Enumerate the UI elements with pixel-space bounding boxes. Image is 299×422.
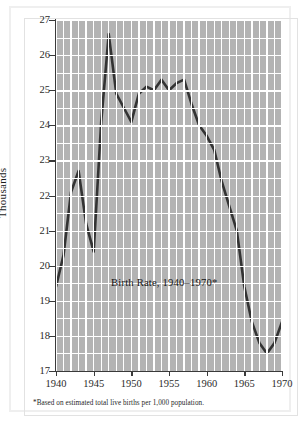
vertical-gridline — [251, 20, 252, 371]
vertical-gridline — [123, 20, 124, 371]
x-tick-label: 1945 — [74, 378, 114, 389]
y-tick-mark — [49, 301, 55, 302]
y-tick-mark — [49, 196, 55, 197]
y-tick-label: 27 — [10, 15, 50, 26]
y-tick-mark — [49, 20, 55, 21]
y-tick-label: 21 — [10, 226, 50, 237]
x-tick-label: 1955 — [149, 378, 189, 389]
y-tick-label: 19 — [10, 296, 50, 307]
x-tick-label: 1965 — [224, 378, 264, 389]
vertical-gridline — [214, 20, 215, 371]
y-tick-label: 22 — [10, 191, 50, 202]
y-tick-label: 24 — [10, 120, 50, 131]
vertical-gridline — [191, 20, 192, 371]
vertical-gridline — [146, 20, 147, 371]
vertical-gridline — [266, 20, 267, 371]
x-tick-label: 1960 — [187, 378, 227, 389]
vertical-gridline — [78, 20, 79, 371]
vertical-gridline — [198, 20, 199, 371]
x-tick-mark — [94, 371, 95, 376]
plot-area — [56, 20, 282, 371]
y-tick-mark — [49, 231, 55, 232]
vertical-gridline — [116, 20, 117, 371]
vertical-gridline — [206, 20, 207, 371]
y-tick-mark — [49, 371, 55, 372]
x-tick-mark — [244, 371, 245, 376]
y-tick-mark — [49, 55, 55, 56]
y-axis-line — [55, 19, 56, 372]
y-tick-label: 26 — [10, 50, 50, 61]
y-tick-mark — [49, 90, 55, 91]
x-tick-mark — [282, 371, 283, 376]
x-tick-mark — [131, 371, 132, 376]
vertical-gridline — [229, 20, 230, 371]
x-tick-mark — [56, 371, 57, 376]
vertical-gridline — [131, 20, 132, 371]
x-tick-label: 1970 — [262, 378, 299, 389]
vertical-gridline — [168, 20, 169, 371]
vertical-gridline — [221, 20, 222, 371]
y-tick-label: 25 — [10, 85, 50, 96]
vertical-gridline — [259, 20, 260, 371]
y-tick-mark — [49, 160, 55, 161]
vertical-gridline — [183, 20, 184, 371]
chart-caption: Birth Rate, 1940–1970* — [111, 277, 218, 288]
y-tick-label: 23 — [10, 155, 50, 166]
vertical-gridline — [70, 20, 71, 371]
vertical-gridline — [281, 20, 282, 371]
x-tick-mark — [207, 371, 208, 376]
vertical-gridline — [153, 20, 154, 371]
vertical-gridline — [244, 20, 245, 371]
vertical-gridline — [85, 20, 86, 371]
vertical-gridline — [108, 20, 109, 371]
y-tick-label: 17 — [10, 366, 50, 377]
x-tick-label: 1950 — [111, 378, 151, 389]
y-tick-label: 18 — [10, 331, 50, 342]
chart-footnote: *Based on estimated total live births pe… — [33, 399, 283, 407]
vertical-gridline — [274, 20, 275, 371]
vertical-gridline — [138, 20, 139, 371]
vertical-gridline — [101, 20, 102, 371]
y-tick-mark — [49, 266, 55, 267]
y-tick-mark — [49, 336, 55, 337]
y-tick-mark — [49, 125, 55, 126]
x-tick-label: 1940 — [36, 378, 76, 389]
vertical-gridline — [236, 20, 237, 371]
vertical-gridline — [176, 20, 177, 371]
vertical-gridline — [63, 20, 64, 371]
x-tick-mark — [169, 371, 170, 376]
y-axis-title: Thousands — [0, 168, 8, 218]
vertical-gridline — [161, 20, 162, 371]
vertical-gridline — [93, 20, 94, 371]
y-tick-label: 20 — [10, 261, 50, 272]
figure-birth-rate-chart: © Cengage Learning 171819202122232425262… — [0, 0, 299, 422]
